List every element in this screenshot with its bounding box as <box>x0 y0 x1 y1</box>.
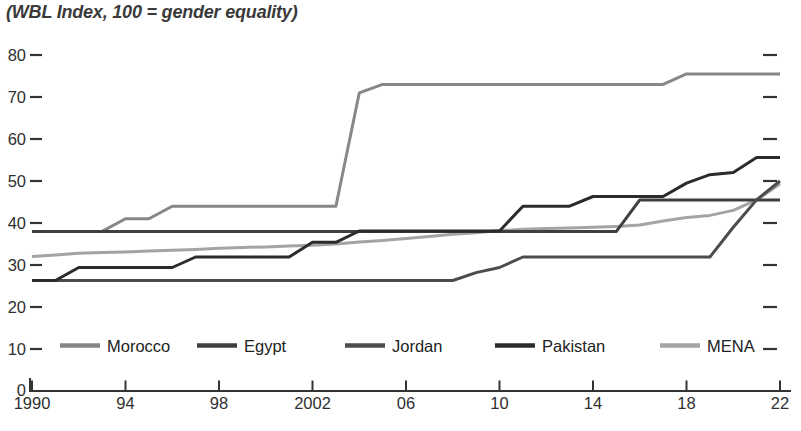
y-tick-label-10: 10 <box>8 340 26 358</box>
y-tick-label-30: 30 <box>8 256 26 274</box>
y-tick-label-60: 60 <box>8 130 26 148</box>
x-tick-label-2014: 14 <box>584 394 602 412</box>
series-line-morocco <box>32 74 780 232</box>
y-zero-label: 0 <box>17 381 26 399</box>
y-tick-label-50: 50 <box>8 172 26 190</box>
x-axis-line <box>30 378 791 391</box>
y-tick-label-80: 80 <box>8 46 26 64</box>
wbl-line-chart-canvas: 199094982002061014182201020304050607080M… <box>0 0 801 431</box>
x-tick-label-1998: 98 <box>210 394 228 412</box>
chart-title: (WBL Index, 100 = gender equality) <box>6 2 297 23</box>
x-tick-label-2010: 10 <box>490 394 508 412</box>
x-tick-label-2006: 06 <box>397 394 415 412</box>
legend-label-morocco: Morocco <box>107 337 170 355</box>
legend-label-pakistan: Pakistan <box>542 337 605 355</box>
y-tick-label-40: 40 <box>8 214 26 232</box>
x-tick-label-1994: 94 <box>116 394 134 412</box>
y-tick-label-70: 70 <box>8 88 26 106</box>
x-tick-label-2018: 18 <box>677 394 695 412</box>
series-line-egypt <box>32 200 780 232</box>
wbl-index-figure: (WBL Index, 100 = gender equality) 19909… <box>0 0 801 431</box>
x-tick-label-2002: 2002 <box>294 394 331 412</box>
x-tick-label-2022: 22 <box>771 394 789 412</box>
legend-label-egypt: Egypt <box>244 337 287 355</box>
legend-label-jordan: Jordan <box>392 337 442 355</box>
y-tick-label-20: 20 <box>8 298 26 316</box>
legend-label-mena: MENA <box>707 337 755 355</box>
